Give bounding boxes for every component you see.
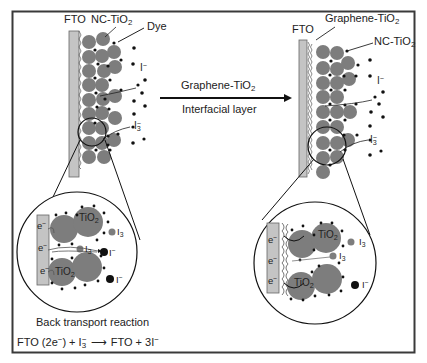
right-inset-tio2-bottom-sub: 2	[310, 281, 314, 290]
right-triiodide-sup: −	[373, 133, 377, 142]
left-fto-layer	[69, 31, 79, 177]
left-inset-electron-2: e−	[38, 243, 47, 253]
left-inset-triiodide-outer-sub: 3	[120, 231, 124, 238]
right-triiodide-label: I3−	[370, 134, 377, 146]
left-inset-electron-1: e−	[37, 221, 46, 231]
right-graphene-tio2-sub: 2	[395, 17, 399, 26]
left-fto-label: FTO	[64, 14, 86, 25]
left-inset-tio2-top-base: TiO	[79, 212, 95, 223]
reaction-arrow-icon: ⟶	[91, 336, 107, 348]
caption-equation: FTO (2e−) + I3−⟶FTO + 3I−	[17, 336, 159, 349]
equation-rhs: FTO + 3I	[111, 336, 155, 348]
left-inset-tio2-bottom: TiO2	[55, 267, 75, 278]
right-fto-label: FTO	[292, 24, 314, 35]
right-inset-electron-2-sup: −	[273, 255, 277, 262]
left-inset-tio2-bottom-sub: 2	[71, 270, 75, 279]
left-inset-iodide-1-sup: −	[112, 247, 116, 254]
right-inset-iodide-sup: −	[365, 279, 369, 286]
dssc-schematic	[0, 0, 427, 363]
left-inset-triiodide-outer: I3	[117, 227, 123, 239]
right-iodide-sup: −	[380, 74, 384, 83]
right-inset-tio2-top: TiO2	[318, 230, 338, 241]
left-inset-iodide-2: I−	[116, 275, 123, 285]
equation-i3-sup: −	[82, 335, 87, 344]
right-inset-electron-3-sup: −	[273, 275, 277, 282]
left-nc-tio2-base: NC-TiO	[91, 13, 128, 25]
left-inset-circle	[17, 192, 137, 312]
right-inset-tio2-top-base: TiO	[318, 229, 334, 240]
left-inset-iodide-big-1	[100, 248, 108, 256]
right-inset-tio2-bottom-base: TiO	[294, 277, 310, 288]
left-inset-electron-3: e−	[40, 266, 49, 276]
left-inset-electron-3-sup: −	[45, 265, 49, 272]
left-inset-iodide-2-sup: −	[119, 274, 123, 281]
left-inset	[17, 192, 137, 312]
right-inset-tio2-bottom: TiO2	[294, 278, 314, 289]
equation-rhs-sup: −	[154, 335, 159, 344]
arrow-bottom-label: Interfacial layer	[182, 104, 257, 115]
left-inset-tio2-top-sub: 2	[95, 216, 99, 225]
left-dye-label: Dye	[147, 21, 167, 32]
right-inset-triiodide-outer-sub: 3	[362, 241, 366, 248]
right-nc-tio2-base: NC-TiO	[374, 35, 411, 47]
right-graphene-tio2-base: Graphene-TiO	[325, 12, 395, 24]
left-inset-tio2-top: TiO2	[79, 213, 99, 224]
right-inset-electron-2: e−	[268, 256, 277, 266]
left-inset-electron-1-sup: −	[42, 220, 46, 227]
equation-lhs-close: ) + I	[62, 336, 81, 348]
left-triiodide-sup: −	[137, 119, 141, 128]
right-inset-electron-3: e−	[268, 276, 277, 286]
right-inset-iodide: I−	[362, 280, 369, 290]
equation-lhs: FTO (2e	[17, 336, 58, 348]
left-iodide-label: I−	[140, 62, 147, 73]
right-fto-layer	[299, 40, 307, 177]
right-nc-tio2-label: NC-TiO2	[374, 36, 415, 49]
arrow-top-label-sub: 2	[251, 84, 255, 93]
right-inset-tio2-top-sub: 2	[334, 233, 338, 242]
left-triiodide-label: I3−	[134, 120, 141, 132]
right-graphene-tio2-label: Graphene-TiO2	[325, 13, 399, 26]
left-iodide-sup: −	[143, 61, 147, 70]
caption-title: Back transport reaction	[36, 317, 149, 328]
left-inset-iodide-1: I−	[109, 248, 116, 258]
right-inset-triiodide-inner-sub: 3	[342, 255, 346, 262]
right-inset-iodide-big	[351, 281, 359, 289]
left-inset-iodide-big-2	[106, 275, 114, 283]
right-inset-electron-1-sup: −	[273, 234, 277, 241]
left-nc-tio2-label: NC-TiO2	[91, 14, 132, 27]
left-inset-tio2-bottom-base: TiO	[55, 266, 71, 277]
arrow-top-label-base: Graphene-TiO	[181, 79, 251, 91]
left-inset-triiodide-inner: I3	[85, 244, 91, 256]
left-tio2-particles	[82, 32, 122, 164]
arrow-top-label: Graphene-TiO2	[181, 80, 255, 93]
right-inset-triiodide-inner: I3	[339, 251, 345, 263]
left-inset-electron-2-sup: −	[43, 242, 47, 249]
right-inset-electron-1: e−	[268, 235, 277, 245]
left-inset-triiodide-inner-sub: 3	[88, 248, 92, 255]
right-iodide-label: I−	[377, 75, 384, 86]
right-nc-tio2-sub: 2	[411, 40, 415, 49]
left-nc-tio2-sub: 2	[128, 18, 132, 27]
right-inset-triiodide-outer: I3	[359, 237, 365, 249]
